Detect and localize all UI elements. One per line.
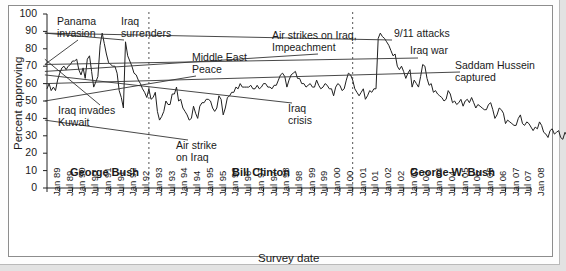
y-tick-label-80: 80: [11, 42, 37, 54]
x-tick-label-jul-06: Jul 06: [497, 171, 508, 196]
x-tick-label-jan-08: Jan 08: [535, 167, 546, 196]
president-label-george-bush: George Bush: [70, 166, 139, 178]
annotation-iraq-war: Iraq war: [410, 45, 448, 57]
x-tick-label-jul-93: Jul 93: [166, 171, 177, 196]
x-tick-label-jan-07: Jan 07: [510, 167, 521, 196]
x-tick-label-jul-01: Jul 01: [369, 171, 380, 196]
x-tick-label-jul-07: Jul 07: [522, 171, 533, 196]
annotation-iraq-surrenders: Iraqsurrenders: [121, 16, 171, 39]
x-tick-label-jan-94: Jan 94: [178, 167, 189, 196]
chart-page: 0102030405060708090100Percent approvingJ…: [0, 0, 566, 271]
x-tick-label-jan-93: Jan 93: [153, 167, 164, 196]
annotation-iraq-crisis: Iraqcrisis: [288, 103, 312, 126]
president-label-bill-clinton: Bill Clinton: [232, 166, 290, 178]
y-tick-label-100: 100: [11, 7, 37, 19]
x-tick-label-jul-99: Jul 99: [318, 171, 329, 196]
x-tick-label-jan-89: Jan 89: [51, 167, 62, 196]
x-tick-label-jul-98: Jul 98: [293, 171, 304, 196]
x-tick-label-jul-94: Jul 94: [191, 171, 202, 196]
president-label-george-w-bush: George W. Bush: [410, 166, 495, 178]
annotation-saddam-hussein-captured: Saddam Husseincaptured: [455, 60, 535, 83]
annotation-air-strike-on-iraq: Air strikeon Iraq: [176, 140, 217, 163]
x-tick-label-jul-02: Jul 02: [395, 171, 406, 196]
x-tick-label-jul-00: Jul 00: [344, 171, 355, 196]
x-tick-label-jan-95: Jan 95: [204, 167, 215, 196]
annotation-september-11-attacks: 9/11 attacks: [394, 28, 450, 40]
annotation-panama-invasion: Panamainvasion: [57, 16, 96, 39]
x-tick-label-jan-00: Jan 00: [331, 167, 342, 196]
y-tick-label-0: 0: [11, 181, 37, 193]
x-axis-title: Survey date: [258, 252, 319, 264]
y-tick-label-90: 90: [11, 24, 37, 36]
y-tick-label-10: 10: [11, 164, 37, 176]
x-tick-label-jul-92: Jul 92: [140, 171, 151, 196]
annotation-iraq-invades-kuwait: Iraq invadesKuwait: [58, 105, 115, 128]
x-tick-label-jan-02: Jan 02: [382, 167, 393, 196]
annotation-middle-east-peace: Middle EastPeace: [192, 52, 247, 75]
y-axis-title: Percent approving: [12, 57, 24, 150]
x-tick-label-jan-01: Jan 01: [357, 167, 368, 196]
x-tick-label-jul-95: Jul 95: [217, 171, 228, 196]
x-tick-label-jan-99: Jan 99: [306, 167, 317, 196]
annotation-air-strikes-impeachment: Air strikes on Iraq,Impeachment: [272, 30, 357, 53]
